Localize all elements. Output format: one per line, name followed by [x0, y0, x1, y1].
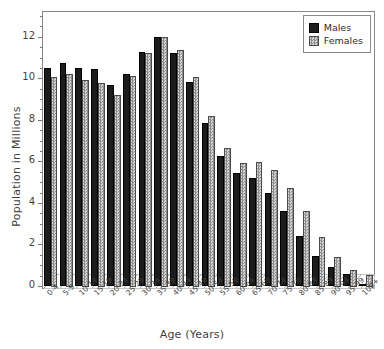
bar-female — [303, 211, 310, 287]
bar-female — [271, 170, 278, 287]
bar-male — [107, 85, 114, 286]
bar-female — [66, 74, 73, 287]
bar-group — [202, 12, 218, 289]
y-tick-label: 0 — [29, 279, 35, 290]
bar-male — [202, 123, 209, 286]
bar-group — [44, 12, 60, 289]
bar-group — [91, 12, 107, 289]
chart-legend: Males Females — [303, 15, 371, 53]
legend-item-females: Females — [309, 35, 363, 46]
bar-male — [60, 63, 67, 286]
bar-female — [82, 80, 89, 288]
bar-male — [186, 82, 193, 286]
bar-female — [98, 83, 105, 288]
bar-group — [154, 12, 170, 289]
bar-male — [123, 74, 130, 286]
bar-male — [44, 68, 51, 286]
bar-male — [139, 52, 146, 286]
bar-female — [193, 77, 200, 287]
bar-female — [130, 76, 137, 287]
bar-female — [224, 148, 231, 287]
bar-group — [139, 12, 155, 289]
y-tick-label: 12 — [22, 30, 35, 41]
bar-group — [186, 12, 202, 289]
bar-female — [256, 162, 263, 288]
x-axis-title: Age (Years) — [0, 328, 384, 341]
bar-group — [328, 12, 344, 289]
y-tick-label: 2 — [29, 237, 35, 248]
bar-group — [280, 12, 296, 289]
bar-group — [60, 12, 76, 289]
plot-area — [43, 12, 374, 289]
bar-male — [154, 37, 161, 286]
dark-solid-swatch-icon — [309, 23, 319, 33]
bar-group — [107, 12, 123, 289]
legend-item-males: Males — [309, 22, 363, 33]
bar-female — [145, 53, 152, 288]
bar-group — [75, 12, 91, 289]
y-tick-label: 4 — [29, 196, 35, 207]
bar-group — [343, 12, 359, 289]
bar-group — [123, 12, 139, 289]
legend-label-females: Females — [324, 35, 363, 46]
bar-female — [51, 77, 58, 287]
bar-group — [296, 12, 312, 289]
bar-male — [233, 173, 240, 286]
bar-male — [249, 178, 256, 286]
y-axis-title: Population in Millions — [10, 67, 23, 267]
bar-female — [114, 95, 121, 287]
bar-male — [170, 53, 177, 286]
bar-female — [287, 188, 294, 288]
bar-group — [312, 12, 328, 289]
y-tick-label: 8 — [29, 113, 35, 124]
bar-male — [75, 68, 82, 286]
bar-female — [240, 163, 247, 288]
y-tick-label: 6 — [29, 154, 35, 165]
bar-group — [170, 12, 186, 289]
population-pyramid-bar-chart: Population in Millions 024681012 — [0, 0, 384, 349]
bar-group — [217, 12, 233, 289]
y-tick-label: 10 — [22, 71, 35, 82]
bar-female — [208, 116, 215, 287]
legend-label-males: Males — [324, 22, 351, 33]
bar-series-container — [43, 12, 374, 289]
bar-group — [249, 12, 265, 289]
bar-male — [217, 156, 224, 286]
bar-male — [265, 193, 272, 286]
bar-female — [177, 50, 184, 287]
bar-male — [91, 69, 98, 286]
bar-female — [161, 37, 168, 287]
bar-group — [265, 12, 281, 289]
gray-hatched-swatch-icon — [309, 36, 319, 46]
bar-group — [359, 12, 375, 289]
bar-group — [233, 12, 249, 289]
